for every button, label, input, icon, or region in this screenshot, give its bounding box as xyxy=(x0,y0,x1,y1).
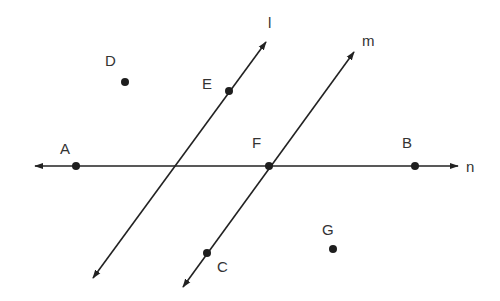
geometry-diagram: n l m A B F E C D G xyxy=(0,0,500,301)
point-f xyxy=(265,162,273,170)
point-f-label: F xyxy=(252,134,261,151)
lines-layer xyxy=(35,42,458,287)
point-c xyxy=(203,249,211,257)
point-d-label: D xyxy=(105,52,116,69)
points-layer xyxy=(72,78,419,257)
point-e-label: E xyxy=(202,75,212,92)
point-e xyxy=(225,87,233,95)
point-c-label: C xyxy=(217,258,228,275)
line-l-label: l xyxy=(268,14,271,31)
line-n-label: n xyxy=(466,158,474,175)
point-b-label: B xyxy=(402,134,412,151)
line-m-label: m xyxy=(362,32,375,49)
point-g xyxy=(329,245,337,253)
point-d xyxy=(121,78,129,86)
point-a xyxy=(72,162,80,170)
point-a-label: A xyxy=(60,140,70,157)
point-b xyxy=(411,162,419,170)
point-g-label: G xyxy=(322,221,334,238)
line-l xyxy=(93,42,266,278)
